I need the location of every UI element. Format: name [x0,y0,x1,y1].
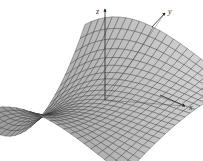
surface-mesh [0,17,203,161]
surface-plot: z y x [0,0,203,161]
y-axis-label: y [167,7,172,16]
z-axis-label: z [95,7,100,16]
x-axis-label: x [188,103,193,112]
y-axis-tip [152,13,165,27]
